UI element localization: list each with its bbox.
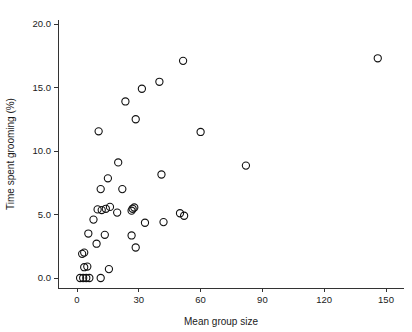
data-point [97,186,104,193]
y-axis-title: Time spent grooming (%) [5,98,16,210]
scatter-plot-figure: 0.05.010.015.020.00306090120150Mean grou… [0,0,412,332]
data-point [119,186,126,193]
x-tick-label: 0 [74,294,79,305]
data-point [85,230,92,237]
y-tick-label: 5.0 [38,209,51,220]
data-point [115,159,122,166]
data-point [95,128,102,135]
y-tick-label: 20.0 [33,18,52,29]
data-point [97,274,104,281]
x-tick-label: 60 [195,294,206,305]
data-point-group [76,55,381,282]
data-point [81,249,88,256]
data-point [156,78,163,85]
x-tick-label: 120 [316,294,332,305]
y-tick-label: 15.0 [33,82,52,93]
x-tick-label: 150 [378,294,394,305]
data-point [93,240,100,247]
data-point [128,232,135,239]
data-point [242,162,249,169]
data-point [138,85,145,92]
data-point [101,231,108,238]
data-point [374,55,381,62]
y-tick-label: 10.0 [33,145,52,156]
x-axis-title: Mean group size [184,316,258,327]
x-tick-label: 30 [134,294,145,305]
data-point [197,128,204,135]
data-point [90,216,97,223]
data-point [122,98,129,105]
data-point [132,116,139,123]
data-point [106,203,113,210]
data-point [132,244,139,251]
data-point [102,205,109,212]
data-point [105,266,112,273]
data-point [141,219,148,226]
x-tick-label: 90 [257,294,268,305]
plot-canvas: 0.05.010.015.020.00306090120150Mean grou… [0,0,412,332]
y-tick-label: 0.0 [38,272,51,283]
data-point [104,175,111,182]
data-point [160,219,167,226]
data-point [114,209,121,216]
data-point [158,171,165,178]
data-point [179,57,186,64]
